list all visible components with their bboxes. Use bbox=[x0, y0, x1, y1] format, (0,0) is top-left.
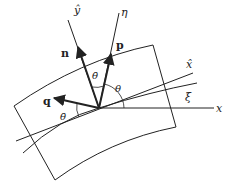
shell-element-diagram: ŷ η x̂ ξ x n p q θ θ̄ θ̄ bbox=[0, 0, 233, 188]
xi-curve bbox=[23, 83, 197, 153]
p-vector bbox=[99, 54, 111, 108]
theta-bar-left-label: θ̄ bbox=[60, 111, 66, 122]
y-hat-label: ŷ bbox=[73, 4, 81, 17]
eta-label: η bbox=[121, 6, 128, 19]
x-hat-label: x̂ bbox=[186, 58, 193, 71]
theta-bar-top-label: θ̄ bbox=[92, 70, 98, 81]
shell-element-outline bbox=[14, 45, 176, 180]
n-label: n bbox=[61, 47, 69, 60]
q-label: q bbox=[43, 95, 51, 108]
theta-bar-top-arc bbox=[92, 86, 104, 87]
x-label: x bbox=[216, 102, 223, 115]
theta-label: θ bbox=[115, 83, 121, 94]
xi-label: ξ bbox=[185, 91, 192, 104]
p-label: p bbox=[116, 39, 124, 52]
